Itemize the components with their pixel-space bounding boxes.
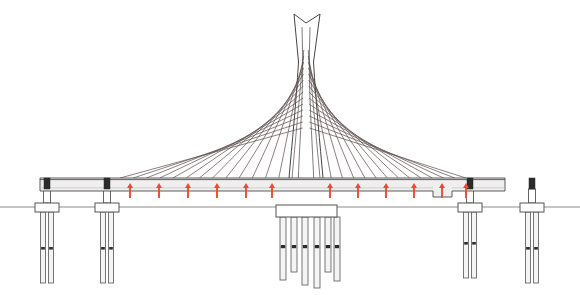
pier-3-pile-segment-mark: [464, 242, 468, 245]
pier-2-pile-segment-mark: [109, 247, 113, 250]
bearing-pier-2: [104, 178, 110, 189]
pier-1-pile-segment-mark: [49, 247, 53, 250]
stay-cable: [309, 104, 421, 178]
stay-cable: [213, 86, 304, 178]
main-pier-pile: [291, 217, 297, 272]
pile-segment-mark: [335, 245, 339, 248]
stay-cable: [226, 80, 303, 178]
pile-segment-mark: [292, 245, 296, 248]
stay-cable: [308, 62, 342, 178]
main-pier-pile: [302, 217, 308, 285]
main-pier-pile: [280, 217, 286, 280]
bearing-pier-4: [529, 178, 535, 189]
pile-segment-mark: [281, 245, 285, 248]
pier-4-pile-segment-mark: [526, 247, 530, 250]
pier-1-pile-segment-mark: [41, 247, 45, 250]
main-pier-pile: [325, 217, 331, 272]
pile-segment-mark: [326, 245, 330, 248]
pier-1-cap: [35, 203, 59, 212]
stay-cables-group: [120, 50, 466, 178]
bridge-elevation-drawing: [0, 0, 580, 295]
substructure-group: [35, 189, 544, 288]
pier-3-cap: [458, 203, 482, 212]
pile-segment-mark: [315, 245, 319, 248]
pier-3-pile: [472, 212, 477, 278]
bearing-left-end: [44, 178, 50, 189]
stay-cable: [160, 110, 303, 178]
stay-cable: [309, 110, 432, 178]
stay-cable: [252, 68, 303, 178]
main-pier-pile-cap: [276, 205, 337, 217]
main-pier-pile: [314, 217, 320, 288]
pier-2-pile-segment-mark: [101, 247, 105, 250]
stay-cable: [173, 104, 303, 178]
stay-cable: [309, 98, 410, 178]
pier-4-pile-segment-mark: [534, 247, 538, 250]
drawing-canvas: [0, 0, 580, 295]
pier-4-column: [529, 189, 536, 203]
pile-segment-mark: [303, 245, 307, 248]
pylon-apex-notch: [294, 14, 320, 23]
pier-4-cap: [520, 203, 544, 212]
pier-3-pile-segment-mark: [472, 242, 476, 245]
stay-cable: [186, 98, 303, 178]
main-pier-pile: [334, 217, 340, 281]
pier-2-cap: [95, 203, 119, 212]
stay-cable: [120, 128, 303, 178]
pier-3-pile: [464, 212, 469, 278]
